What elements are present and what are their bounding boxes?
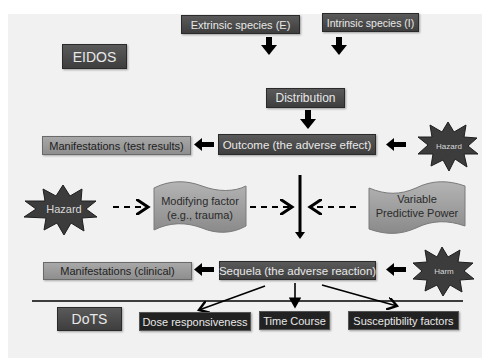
arrow-outcome-to-sequela bbox=[295, 175, 305, 239]
harm-label: Harm bbox=[420, 263, 468, 279]
extrinsic-species-box: Extrinsic species (E) bbox=[181, 15, 300, 34]
outcome-box: Outcome (the adverse effect) bbox=[218, 134, 376, 155]
modifying-factor-line2: (e.g., trauma) bbox=[167, 208, 233, 222]
modifying-factor-label: Modifying factor (e.g., trauma) bbox=[154, 188, 246, 228]
eidos-label-box: EIDOS bbox=[62, 44, 127, 69]
arrow-hazard-to-outcome bbox=[386, 138, 406, 151]
arrow-sequela-to-susceptibility bbox=[322, 285, 397, 306]
intrinsic-species-box: Intrinsic species (I) bbox=[322, 13, 419, 32]
intrinsic-species-label: Intrinsic species (I) bbox=[327, 17, 415, 29]
hazard-left-label: Hazard bbox=[40, 201, 88, 217]
dose-responsiveness-box: Dose responsiveness bbox=[139, 312, 251, 331]
manifestations-test-label: Manifestations (test results) bbox=[49, 140, 184, 152]
susceptibility-factors-label: Susceptibility factors bbox=[353, 315, 453, 327]
time-course-label: Time Course bbox=[263, 315, 326, 327]
variable-predictive-power-line1: Variable bbox=[397, 192, 437, 206]
dots-label: DoTS bbox=[72, 311, 108, 327]
manifestations-test-box: Manifestations (test results) bbox=[42, 136, 191, 155]
distribution-label: Distribution bbox=[275, 91, 335, 105]
arrow-intrinsic-to-distribution bbox=[331, 37, 347, 55]
dots-label-box: DoTS bbox=[57, 307, 122, 331]
manifestations-clinical-label: Manifestations (clinical) bbox=[60, 265, 174, 277]
arrow-harm-to-sequela bbox=[386, 263, 406, 276]
arrow-sequela-to-dose bbox=[199, 286, 265, 310]
susceptibility-factors-box: Susceptibility factors bbox=[348, 311, 459, 330]
arrow-distribution-to-outcome bbox=[300, 110, 316, 129]
arrow-sequela-to-manifestations bbox=[194, 263, 214, 276]
sequela-label: Sequela (the adverse reaction) bbox=[219, 265, 376, 277]
distribution-box: Distribution bbox=[266, 88, 345, 108]
extrinsic-species-label: Extrinsic species (E) bbox=[191, 19, 291, 31]
dose-responsiveness-label: Dose responsiveness bbox=[142, 316, 247, 328]
manifestations-clinical-box: Manifestations (clinical) bbox=[43, 262, 192, 280]
modifying-factor-line1: Modifying factor bbox=[161, 194, 239, 208]
time-course-box: Time Course bbox=[259, 311, 330, 330]
outcome-label: Outcome (the adverse effect) bbox=[223, 139, 372, 151]
hazard-right-label: Hazard bbox=[425, 138, 473, 154]
arrow-extrinsic-to-distribution bbox=[261, 37, 277, 55]
sequela-box: Sequela (the adverse reaction) bbox=[219, 261, 376, 280]
eidos-label: EIDOS bbox=[73, 49, 117, 65]
variable-predictive-power-label: Variable Predictive Power bbox=[369, 186, 465, 226]
variable-predictive-power-line2: Predictive Power bbox=[376, 206, 459, 220]
arrow-outcome-to-manifestations bbox=[194, 138, 214, 151]
